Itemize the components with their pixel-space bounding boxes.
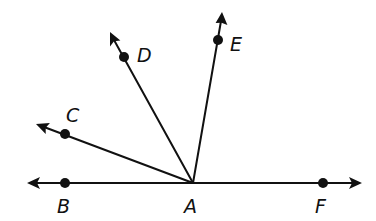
point-c-icon bbox=[60, 129, 70, 139]
point-d-icon bbox=[119, 52, 129, 62]
label-d: D bbox=[137, 44, 152, 66]
label-e: E bbox=[230, 33, 242, 55]
ray-ae-line bbox=[193, 21, 221, 183]
point-f-icon bbox=[318, 178, 328, 188]
label-b: B bbox=[57, 195, 70, 217]
label-a: A bbox=[182, 195, 197, 217]
geometry-diagram: B A F C D E bbox=[0, 0, 376, 221]
ray-ac bbox=[36, 123, 193, 183]
point-e-icon bbox=[213, 35, 223, 45]
point-b-icon bbox=[60, 178, 70, 188]
label-f: F bbox=[315, 195, 327, 217]
label-c: C bbox=[66, 104, 80, 126]
